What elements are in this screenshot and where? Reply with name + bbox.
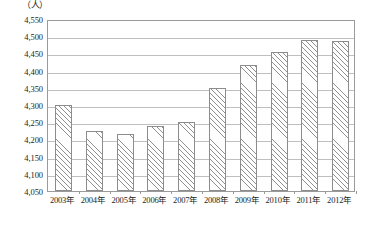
x-axis-tick-label: 2005年 — [111, 195, 136, 206]
bar — [178, 122, 195, 191]
y-axis-tick-label: 4,300 — [24, 102, 43, 111]
x-axis-tick-mark — [294, 191, 295, 194]
y-axis-tick-label: 4,550 — [24, 16, 43, 25]
bar-chart-figure: （人） 4,5504,5004,4504,4004,3504,3004,2504… — [0, 0, 371, 226]
x-axis-tick-label: 2008年 — [204, 195, 229, 206]
x-axis-tick-mark — [233, 191, 234, 194]
y-axis-tick-label-group: 4,5504,5004,4504,4004,3504,3004,2504,200… — [0, 20, 45, 192]
x-axis-tick-mark — [79, 191, 80, 194]
bar — [147, 126, 164, 191]
x-axis-tick-label: 2006年 — [142, 195, 167, 206]
y-axis-tick-label: 4,050 — [24, 188, 43, 197]
x-axis-tick-label: 2012年 — [327, 195, 352, 206]
bar — [209, 88, 226, 191]
x-axis-tick-label: 2004年 — [81, 195, 106, 206]
x-axis-tick-label: 2009年 — [235, 195, 260, 206]
x-axis-tick-mark — [264, 191, 265, 194]
x-axis-tick-mark — [110, 191, 111, 194]
y-axis-tick-label: 4,450 — [24, 50, 43, 59]
y-axis-tick-label: 4,250 — [24, 119, 43, 128]
y-axis-tick-label: 4,200 — [24, 136, 43, 145]
x-axis-tick-mark — [171, 191, 172, 194]
x-axis-tick-label: 2010年 — [265, 195, 290, 206]
x-axis-tick-label: 2011年 — [296, 195, 321, 206]
bar — [55, 105, 72, 191]
bar — [240, 65, 257, 191]
y-axis-unit-label: （人） — [22, 0, 48, 11]
y-axis-tick-label: 4,100 — [24, 170, 43, 179]
y-axis-tick-label: 4,500 — [24, 33, 43, 42]
x-axis-tick-mark — [356, 191, 357, 194]
x-axis-tick-mark — [140, 191, 141, 194]
y-axis-tick-label: 4,350 — [24, 84, 43, 93]
y-axis-tick-label: 4,150 — [24, 153, 43, 162]
plot-area — [47, 20, 355, 192]
bar — [86, 131, 103, 191]
x-axis-tick-mark — [325, 191, 326, 194]
y-axis-tick-label: 4,400 — [24, 67, 43, 76]
bar — [301, 40, 318, 191]
bar — [117, 134, 134, 191]
x-axis-tick-label-group: 2003年2004年2005年2006年2007年2008年2009年2010年… — [47, 195, 355, 211]
x-axis-tick-label: 2007年 — [173, 195, 198, 206]
bars-layer — [48, 21, 354, 191]
x-axis-tick-mark — [202, 191, 203, 194]
bar — [271, 52, 288, 191]
bar — [332, 41, 349, 191]
x-axis-tick-label: 2003年 — [50, 195, 75, 206]
